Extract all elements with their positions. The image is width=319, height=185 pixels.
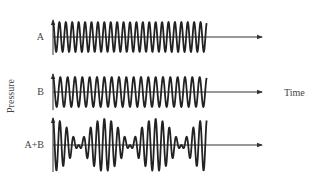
y-axis-label: Pressure [5,79,16,113]
plot-ab-label: A+B [24,139,44,150]
x-axis-label: Time [284,87,305,98]
plot-a-plus-b: A+B [24,118,262,172]
beats-diagram: Pressure Time A B A+B [0,0,319,185]
plot-b-label: B [37,86,44,97]
plot-a-label: A [37,31,45,42]
plot-a: A [37,20,262,55]
plot-b: B [37,74,262,110]
